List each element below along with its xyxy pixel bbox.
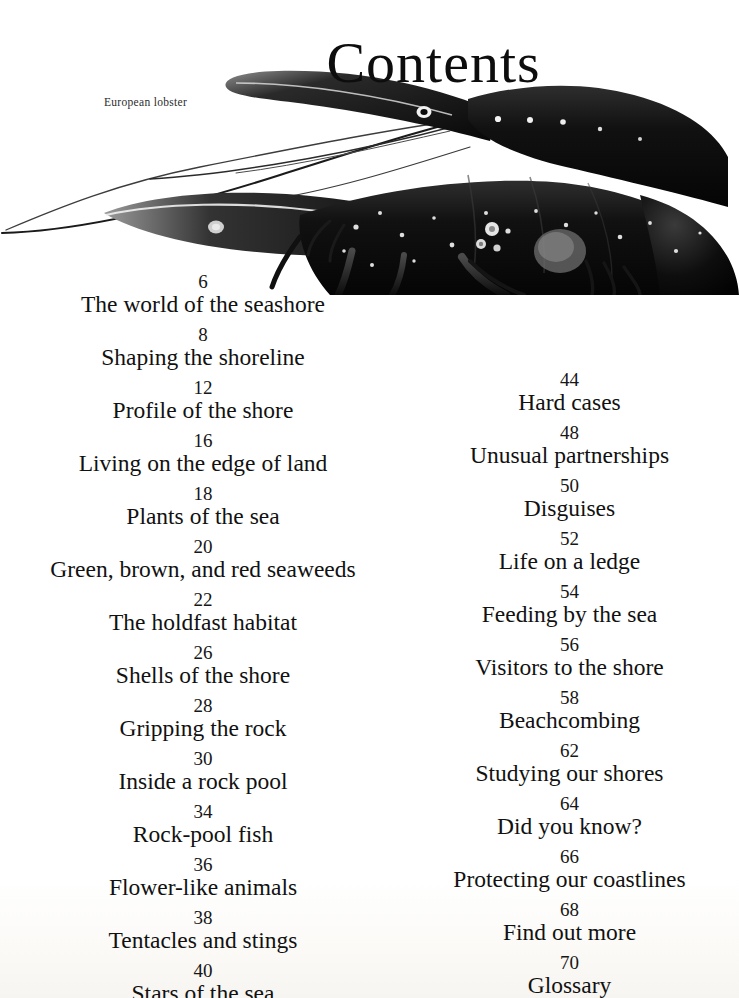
entry-title: Shaping the shoreline: [22, 343, 384, 371]
entry-page-number: 56: [400, 635, 739, 654]
entry-title: Shells of the shore: [22, 661, 384, 689]
entry-page-number: 50: [400, 476, 739, 495]
entry-title: Living on the edge of land: [22, 449, 384, 477]
contents-entry[interactable]: 38Tentacles and stings: [22, 908, 384, 954]
contents-entry[interactable]: 58Beachcombing: [400, 688, 739, 734]
contents-entry[interactable]: 22The holdfast habitat: [22, 590, 384, 636]
contents-entry[interactable]: 62Studying our shores: [400, 741, 739, 787]
entry-page-number: 28: [22, 696, 384, 715]
entry-title: Life on a ledge: [400, 547, 739, 575]
contents-entry[interactable]: 68Find out more: [400, 900, 739, 946]
entry-page-number: 36: [22, 855, 384, 874]
contents-left-column: 6The world of the seashore8Shaping the s…: [22, 272, 384, 998]
entry-title: Unusual partnerships: [400, 441, 739, 469]
entry-page-number: 58: [400, 688, 739, 707]
contents-entry[interactable]: 26Shells of the shore: [22, 643, 384, 689]
entry-page-number: 44: [400, 370, 739, 389]
contents-entry[interactable]: 8Shaping the shoreline: [22, 325, 384, 371]
entry-page-number: 48: [400, 423, 739, 442]
entry-page-number: 34: [22, 802, 384, 821]
entry-page-number: 66: [400, 847, 739, 866]
entry-title: Stars of the sea: [22, 979, 384, 998]
entry-title: Beachcombing: [400, 706, 739, 734]
entry-title: Gripping the rock: [22, 714, 384, 742]
contents-right-column: 44Hard cases48Unusual partnerships50Disg…: [400, 370, 739, 998]
entry-page-number: 12: [22, 378, 384, 397]
entry-title: Flower-like animals: [22, 873, 384, 901]
entry-title: The world of the seashore: [22, 290, 384, 318]
entry-title: The holdfast habitat: [22, 608, 384, 636]
entry-title: Inside a rock pool: [22, 767, 384, 795]
entry-title: Profile of the shore: [22, 396, 384, 424]
contents-entry[interactable]: 20Green, brown, and red seaweeds: [22, 537, 384, 583]
contents-entry[interactable]: 6The world of the seashore: [22, 272, 384, 318]
entry-page-number: 8: [22, 325, 384, 344]
entry-title: Feeding by the sea: [400, 600, 739, 628]
contents-entry[interactable]: 12Profile of the shore: [22, 378, 384, 424]
entry-title: Did you know?: [400, 812, 739, 840]
entry-page-number: 26: [22, 643, 384, 662]
entry-page-number: 38: [22, 908, 384, 927]
entry-page-number: 22: [22, 590, 384, 609]
contents-entry[interactable]: 16Living on the edge of land: [22, 431, 384, 477]
entry-page-number: 16: [22, 431, 384, 450]
entry-title: Rock-pool fish: [22, 820, 384, 848]
contents-entry[interactable]: 54Feeding by the sea: [400, 582, 739, 628]
entry-page-number: 54: [400, 582, 739, 601]
contents-entry[interactable]: 34Rock-pool fish: [22, 802, 384, 848]
entry-title: Tentacles and stings: [22, 926, 384, 954]
entry-title: Studying our shores: [400, 759, 739, 787]
entry-title: Green, brown, and red seaweeds: [22, 555, 384, 583]
contents-entry[interactable]: 64Did you know?: [400, 794, 739, 840]
entry-page-number: 6: [22, 272, 384, 291]
entry-page-number: 52: [400, 529, 739, 548]
entry-title: Glossary: [400, 971, 739, 998]
entry-page-number: 30: [22, 749, 384, 768]
contents-entry[interactable]: 40Stars of the sea: [22, 961, 384, 998]
entry-page-number: 70: [400, 953, 739, 972]
contents-entry[interactable]: 66Protecting our coastlines: [400, 847, 739, 893]
contents-entry[interactable]: 48Unusual partnerships: [400, 423, 739, 469]
contents-entry[interactable]: 52Life on a ledge: [400, 529, 739, 575]
contents-entry[interactable]: 44Hard cases: [400, 370, 739, 416]
entry-title: Plants of the sea: [22, 502, 384, 530]
entry-title: Disguises: [400, 494, 739, 522]
contents-entry[interactable]: 50Disguises: [400, 476, 739, 522]
entry-page-number: 68: [400, 900, 739, 919]
contents-entry[interactable]: 30Inside a rock pool: [22, 749, 384, 795]
entry-title: Protecting our coastlines: [400, 865, 739, 893]
contents-page: Contents European lobster 6The world of …: [0, 0, 739, 998]
lobster-caption: European lobster: [104, 96, 187, 108]
contents-entry[interactable]: 18Plants of the sea: [22, 484, 384, 530]
entry-title: Hard cases: [400, 388, 739, 416]
entry-page-number: 18: [22, 484, 384, 503]
contents-entry[interactable]: 36Flower-like animals: [22, 855, 384, 901]
entry-page-number: 62: [400, 741, 739, 760]
entry-page-number: 40: [22, 961, 384, 980]
page-title: Contents: [0, 34, 739, 92]
contents-entry[interactable]: 56Visitors to the shore: [400, 635, 739, 681]
contents-entry[interactable]: 28Gripping the rock: [22, 696, 384, 742]
entry-title: Find out more: [400, 918, 739, 946]
entry-page-number: 20: [22, 537, 384, 556]
contents-entry[interactable]: 70Glossary: [400, 953, 739, 998]
entry-title: Visitors to the shore: [400, 653, 739, 681]
entry-page-number: 64: [400, 794, 739, 813]
